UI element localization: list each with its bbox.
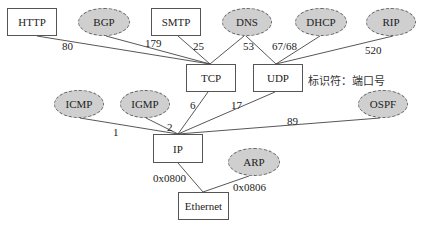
dhcp-node: DHCP	[295, 8, 347, 36]
edge-label-17: 17	[231, 100, 242, 111]
ethernet-label: Ethernet	[185, 200, 222, 212]
edge-label-6: 6	[190, 100, 196, 111]
edge-label-2: 2	[167, 122, 173, 133]
edge-label-179: 179	[145, 38, 162, 49]
ospf-label: OSPF	[370, 98, 396, 110]
edge-label-1: 1	[113, 127, 119, 138]
smtp-label: SMTP	[162, 16, 191, 28]
tcp-node: TCP	[186, 64, 236, 92]
dns-label: DNS	[236, 16, 258, 28]
udp-label: UDP	[267, 72, 289, 84]
arp-label: ARP	[243, 156, 264, 168]
arp-node: ARP	[228, 148, 280, 176]
bgp-node: BGP	[78, 8, 130, 36]
edge-label-89: 89	[287, 116, 298, 127]
edge-label-53: 53	[243, 41, 254, 52]
ip-node: IP	[153, 134, 203, 163]
edge-label-0x0800: 0x0800	[153, 173, 186, 184]
rip-node: RIP	[366, 8, 416, 36]
tcp-label: TCP	[201, 72, 221, 84]
ospf-node: OSPF	[358, 90, 408, 118]
edge-label-25: 25	[193, 41, 204, 52]
smtp-node: SMTP	[151, 8, 201, 36]
bgp-label: BGP	[93, 16, 114, 28]
edge-label-520: 520	[365, 45, 382, 56]
http-label: HTTP	[18, 16, 46, 28]
http-node: HTTP	[7, 8, 57, 36]
edge-label-67-68: 67/68	[272, 41, 297, 52]
igmp-node: IGMP	[120, 90, 170, 118]
udp-node: UDP	[253, 64, 303, 92]
ip-label: IP	[173, 143, 183, 155]
ethernet-node: Ethernet	[178, 192, 229, 220]
edge-label-80: 80	[62, 41, 73, 52]
icmp-label: ICMP	[66, 98, 93, 110]
edge-label-0x0806: 0x0806	[233, 182, 266, 193]
igmp-label: IGMP	[131, 98, 159, 110]
dhcp-label: DHCP	[306, 16, 335, 28]
icmp-node: ICMP	[54, 90, 104, 118]
rip-label: RIP	[382, 16, 399, 28]
identifier-note: 标识符：端口号	[308, 72, 385, 88]
dns-node: DNS	[222, 8, 272, 36]
